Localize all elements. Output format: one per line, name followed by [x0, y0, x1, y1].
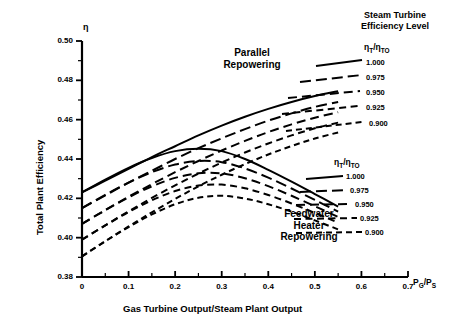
x-tick-label: 0.4 [254, 282, 282, 291]
x-tick-label: 0.5 [301, 282, 329, 291]
chart-figure: η Total Plant Efficiency Parallel Repowe… [0, 0, 465, 323]
x-tick-label: 0.2 [161, 282, 189, 291]
x-tick-label: 0 [68, 282, 96, 291]
x-tick-labels: 00.10.20.30.40.50.60.7 [0, 0, 465, 323]
x-tick-label: 0.6 [347, 282, 375, 291]
x-tick-label: 0.3 [208, 282, 236, 291]
x-tick-label: 0.1 [115, 282, 143, 291]
x-tick-label: 0.7 [394, 282, 422, 291]
